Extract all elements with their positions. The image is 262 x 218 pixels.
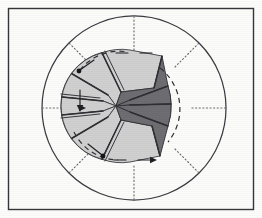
figure-container bbox=[0, 0, 262, 218]
flow-dot-upper-left bbox=[77, 69, 82, 74]
impeller-diagram bbox=[0, 0, 262, 218]
flow-dot-lower-left bbox=[101, 154, 106, 159]
